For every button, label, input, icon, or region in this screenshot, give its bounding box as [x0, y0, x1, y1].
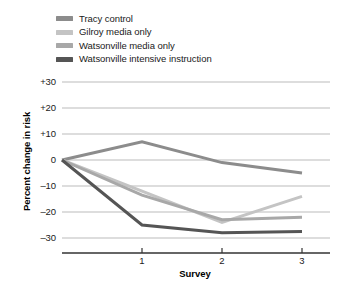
x-axis-tick-label: 2 [212, 256, 232, 266]
plot-area: +30+20+100–10–20–30 123 Percent change i… [0, 0, 346, 299]
figure-caption [16, 291, 336, 299]
series-line [62, 142, 302, 173]
x-axis-tick-label: 1 [132, 256, 152, 266]
series-line [62, 160, 302, 233]
y-axis-tick-label: +30 [26, 77, 56, 87]
plot-svg [0, 0, 346, 299]
data-series-lines [62, 142, 302, 233]
x-axis-tick-label: 3 [292, 256, 312, 266]
y-axis-title: Percent change in risk [21, 92, 32, 232]
gridlines [62, 82, 330, 238]
x-axis-title: Survey [140, 268, 250, 279]
chart-figure: Tracy control Gilroy media only Watsonvi… [0, 0, 346, 299]
y-axis-tick-label: –30 [26, 233, 56, 243]
